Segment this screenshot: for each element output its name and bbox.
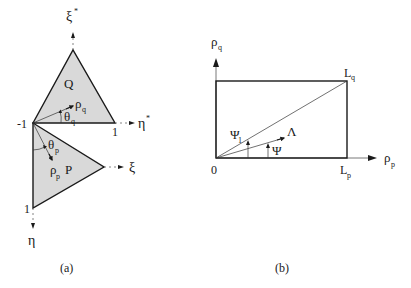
lambda-label: Λ — [287, 124, 297, 139]
rho-p-axis-arrow-icon — [368, 155, 377, 161]
x-axis-label: ρ — [384, 150, 391, 165]
tick-one-bottom: 1 — [24, 202, 30, 216]
theta-p-label: θ — [48, 137, 54, 152]
psi1-sub: 1 — [238, 136, 242, 145]
tick-one-right: 1 — [112, 125, 118, 139]
origin-label: 0 — [211, 163, 217, 177]
panel-b: ρ q ρ p 0 L q L p Λ Ψ Ψ 1 (b) — [211, 34, 395, 275]
q-label: Q — [64, 76, 74, 91]
caption-b: (b) — [275, 261, 289, 275]
tick-minus-one: -1 — [17, 117, 27, 131]
lp-sub: p — [347, 171, 351, 180]
xi-label: ξ — [129, 160, 135, 175]
x-axis-sub: p — [391, 160, 395, 169]
y-axis-sub: q — [218, 43, 222, 52]
psi1-arrow-icon — [246, 140, 250, 145]
xi-star-sup: * — [74, 7, 78, 16]
eta-star-sup: * — [146, 114, 150, 123]
eta-label: η — [28, 233, 35, 248]
eta-arrow-icon — [31, 223, 35, 229]
panel-a: ξ * η * ξ η -1 1 1 Q ρ q θ q P ρ p θ p (… — [17, 7, 150, 275]
rho-q-label: ρ — [75, 96, 82, 111]
eta-star-arrow-icon — [129, 121, 135, 125]
eta-star-label: η — [138, 116, 145, 131]
theta-q-label: θ — [64, 109, 70, 124]
lq-sub: q — [351, 73, 355, 82]
figure: ξ * η * ξ η -1 1 1 Q ρ q θ q P ρ p θ p (… — [0, 0, 411, 288]
rho-q-sub: q — [82, 105, 86, 114]
xi-arrow-icon — [118, 165, 124, 169]
psi-label: Ψ — [272, 143, 282, 158]
rho-p-sub: p — [56, 172, 60, 181]
rho-q-axis-arrow-icon — [213, 58, 219, 67]
triangle-q — [33, 50, 115, 123]
caption-a: (a) — [60, 261, 73, 275]
y-axis-label: ρ — [211, 34, 218, 49]
lambda-arrow-icon — [277, 138, 284, 140]
xi-star-arrow-icon — [71, 32, 75, 38]
xi-star-label: ξ — [66, 9, 72, 24]
psi-arrow-icon — [266, 143, 270, 148]
theta-q-sub: q — [71, 117, 75, 126]
theta-p-sub: p — [55, 146, 59, 155]
p-label: P — [65, 162, 72, 177]
